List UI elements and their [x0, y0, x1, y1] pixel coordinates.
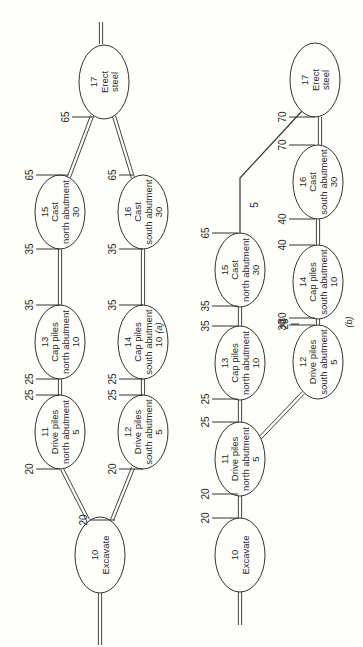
time-label: 35 [107, 299, 118, 311]
activity-node-14: 14Cap pilessouth abutment10 [118, 305, 168, 379]
node-label-line: 11 [219, 454, 230, 464]
node-label-line: 16 [297, 177, 308, 188]
dependency-arrow [141, 379, 144, 395]
node-label-line: Drive piles [132, 410, 143, 455]
network-diagram-b: 10Excavate11Drive pilesnorth abutment512… [200, 43, 354, 625]
time-label: 35 [24, 299, 35, 311]
node-label-line: 11 [39, 427, 50, 437]
node-label-line: south abutment [143, 179, 154, 245]
activity-node-17: 17Erectsteel [290, 43, 340, 117]
lag-dependency-line [240, 111, 302, 233]
node-label-line: 10 [328, 277, 339, 288]
time-label: 25 [200, 416, 211, 428]
node-label-line: 15 [39, 207, 50, 218]
activity-node-16: 16Castsouth abutment30 [118, 175, 168, 249]
node-label-line: Cast [132, 202, 143, 222]
node-label-line: 5 [153, 429, 164, 434]
time-label: 20 [78, 514, 89, 526]
time-label: 20 [200, 512, 211, 524]
dependency-arrow [316, 219, 319, 245]
node-label-line: Excavate [100, 535, 111, 574]
time-label: 25 [107, 389, 118, 401]
node-label-line: steel [320, 70, 331, 90]
node-label-line: south abutment [143, 309, 154, 375]
dependency-arrow [141, 249, 144, 305]
dependency-arrow [98, 593, 101, 645]
dependency-arrow [259, 392, 304, 439]
time-label: 25 [24, 373, 35, 385]
node-label-line: 10 [70, 337, 81, 348]
activity-node-12: 12Drive pilessouth abutment5 [118, 395, 168, 469]
activity-node-10: 10Excavate [75, 517, 125, 593]
time-label: 35 [107, 243, 118, 255]
time-label: 65 [107, 169, 118, 181]
time-label: 65 [200, 227, 211, 239]
time-label: 20 [24, 463, 35, 475]
node-label-line: 10 [250, 358, 261, 369]
time-label: 40 [277, 239, 288, 251]
node-label-line: south abutment [318, 249, 329, 315]
time-label: 70 [277, 139, 288, 151]
precedence-network-figure: 10Excavate11Drive pilesnorth abutment512… [0, 0, 363, 647]
node-label-line: 12 [122, 427, 133, 438]
activity-node-17: 17Erectsteel [79, 45, 129, 119]
time-label: 40 [277, 213, 288, 225]
node-label-line: 10 [153, 337, 164, 348]
node-label-line: 12 [297, 357, 308, 368]
node-label-line: steel [109, 72, 120, 92]
node-label-line: 30 [250, 265, 261, 276]
time-label: 35 [24, 243, 35, 255]
node-label-line: Drive piles [229, 437, 240, 482]
node-label-line: 30 [153, 207, 164, 218]
dependency-arrow [238, 592, 241, 625]
lag-label: 5 [249, 202, 260, 208]
dependency-arrow [112, 116, 134, 179]
node-label-line: south abutment [318, 329, 329, 395]
node-label-line: Cap piles [49, 322, 60, 362]
time-label: 65 [60, 111, 71, 123]
node-label-line: 5 [250, 456, 261, 461]
node-label-line: south abutment [318, 149, 329, 215]
activity-node-16: 16Castsouth abutment30 [293, 145, 343, 219]
time-label: 30 [277, 312, 288, 324]
dependency-arrow [318, 117, 321, 145]
node-label-line: 10 [229, 550, 240, 561]
node-label-line: 15 [219, 265, 230, 276]
dependency-arrow [238, 400, 241, 422]
node-label-line: north abutment [60, 400, 71, 464]
node-label-line: north abutment [240, 238, 251, 302]
time-label: 25 [107, 373, 118, 385]
activity-node-15: 15Castnorth abutment30 [215, 233, 265, 307]
node-label-line: 30 [70, 207, 81, 218]
node-label-line: Cast [49, 202, 60, 222]
time-label: 25 [24, 389, 35, 401]
dependency-arrow [316, 319, 319, 325]
node-label-line: Erect [99, 71, 110, 94]
dependency-arrow [58, 249, 61, 305]
node-label-line: south abutment [143, 399, 154, 465]
node-label-line: 5 [328, 359, 339, 364]
node-label-line: Excavate [240, 535, 251, 574]
dependency-arrow [68, 115, 94, 177]
node-label-line: 17 [88, 77, 99, 88]
time-label: 35 [200, 300, 211, 312]
node-label-line: 5 [70, 429, 81, 434]
activity-node-13: 13Cap pilesnorth abutment10 [35, 305, 85, 379]
node-label-line: Drive piles [49, 410, 60, 455]
time-label: 20 [107, 463, 118, 475]
time-label: 20 [200, 488, 211, 500]
node-label-line: 30 [328, 177, 339, 188]
node-label-line: north abutment [60, 180, 71, 244]
activity-node-12: 12Drive pilessouth abutment5 [293, 325, 343, 399]
time-label: 35 [200, 320, 211, 332]
time-label: 70 [277, 111, 288, 123]
dependency-arrow [238, 307, 241, 326]
activity-node-13: 13Cap pilesnorth abutment10 [215, 326, 265, 400]
dependency-arrow [238, 496, 241, 518]
node-label-line: Cap piles [132, 322, 143, 362]
figure-caption: (a) [154, 322, 164, 333]
node-label-line: 13 [39, 337, 50, 348]
node-label-line: north abutment [240, 331, 251, 395]
activity-node-10: 10Excavate [215, 518, 265, 592]
node-label-line: Cast [229, 260, 240, 280]
